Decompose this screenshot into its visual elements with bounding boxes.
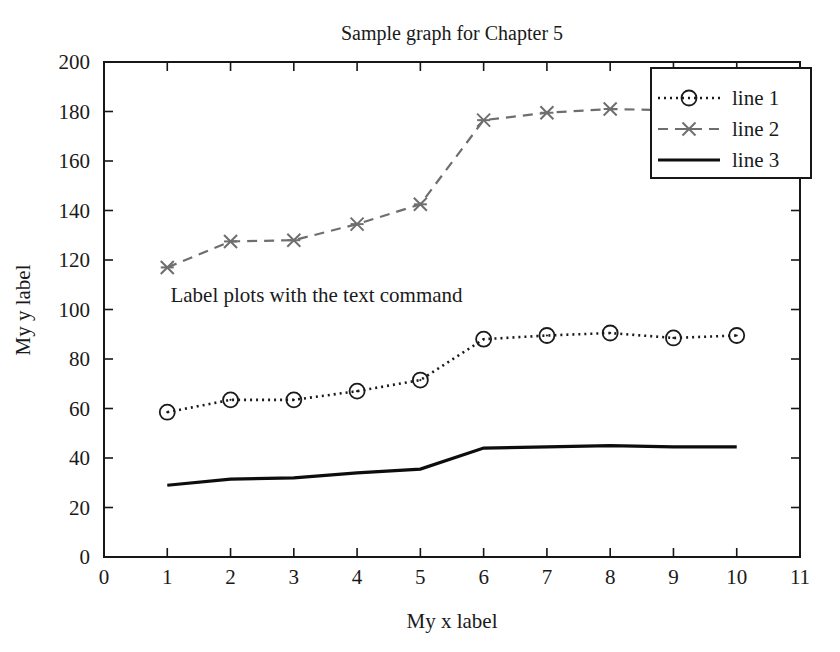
data-point-marker-dot [672,337,674,339]
x-tick-label: 9 [668,565,679,589]
legend-label: line 1 [732,86,779,110]
x-tick-label: 4 [352,565,363,589]
y-tick-label: 20 [69,496,90,520]
y-tick-label: 180 [59,100,91,124]
figure-container: Sample graph for Chapter 5 0204060801001… [0,0,840,652]
y-tick-label: 100 [59,298,91,322]
data-point-marker-dot [356,390,358,392]
x-tick-label: 0 [99,565,110,589]
data-point-marker-dot [229,399,231,401]
chart-canvas: Sample graph for Chapter 5 0204060801001… [0,0,840,652]
x-tick-label: 6 [478,565,489,589]
x-tick-label: 8 [605,565,616,589]
plot-text-annotation: Label plots with the text command [170,283,463,307]
y-tick-label: 40 [69,446,90,470]
x-tick-label: 10 [726,565,747,589]
data-point-marker-dot [736,334,738,336]
x-tick-label: 3 [289,565,300,589]
legend-label: line 2 [732,117,779,141]
y-tick-label: 160 [59,149,91,173]
legend[interactable]: line 1line 2line 3 [651,68,811,178]
legend-label: line 3 [732,148,779,172]
data-point-marker-dot [609,332,611,334]
data-point-marker-dot [483,338,485,340]
data-point-marker-dot [419,379,421,381]
x-tick-label: 7 [542,565,553,589]
x-tick-label: 5 [415,565,426,589]
y-tick-label: 0 [80,545,91,569]
y-tick-label: 80 [69,347,90,371]
x-tick-label: 1 [162,565,173,589]
y-tick-label: 200 [59,50,91,74]
x-tick-label: 11 [790,565,810,589]
plot-annotations: Label plots with the text command [170,283,463,307]
data-point-marker-dot [688,97,690,99]
chart-title: Sample graph for Chapter 5 [341,22,563,45]
x-tick-label: 2 [225,565,236,589]
x-axis-title: My x label [407,609,498,633]
y-axis-title: My y label [11,264,35,355]
legend-entries[interactable]: line 1line 2line 3 [658,86,779,172]
y-tick-label: 120 [59,248,91,272]
y-tick-label: 60 [69,397,90,421]
data-point-marker-dot [293,399,295,401]
data-point-marker-dot [546,334,548,336]
data-point-marker-dot [166,411,168,413]
y-tick-label: 140 [59,199,91,223]
